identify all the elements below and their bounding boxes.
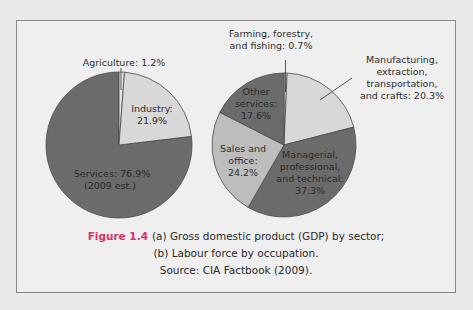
label-managerial-2: professional, bbox=[280, 161, 341, 172]
figure-number: Figure 1.4 bbox=[88, 230, 148, 242]
label-manufacturing-3: transportation, bbox=[367, 78, 438, 89]
label-services-1: Services: 76.9% bbox=[74, 168, 150, 179]
label-managerial-3: and technical: bbox=[276, 173, 343, 184]
label-other-2: services: bbox=[235, 98, 277, 109]
label-sales-3: 24.2% bbox=[228, 167, 258, 178]
label-managerial-4: 37.3% bbox=[295, 185, 325, 196]
label-manufacturing-4: and crafts: 20.3% bbox=[360, 90, 444, 101]
label-sales-2: office: bbox=[228, 155, 257, 166]
gdp-pie-chart bbox=[46, 72, 192, 218]
label-other-3: 17.6% bbox=[241, 110, 271, 121]
caption-part-a: (a) Gross domestic product (GDP) by sect… bbox=[152, 230, 384, 242]
label-services-2: (2009 est.) bbox=[84, 180, 136, 191]
figure-caption: Figure 1.4(a) Gross domestic product (GD… bbox=[16, 228, 456, 279]
label-industry-1: Industry: bbox=[131, 103, 173, 114]
caption-source: Source: CIA Factbook (2009). bbox=[16, 262, 456, 279]
label-industry-2: 21.9% bbox=[137, 115, 167, 126]
label-sales-1: Sales and bbox=[220, 143, 266, 154]
caption-line-2: (b) Labour force by occupation. bbox=[16, 245, 456, 262]
label-other-1: Other bbox=[243, 86, 270, 97]
label-manufacturing-2: extraction, bbox=[376, 66, 427, 77]
caption-line-1: Figure 1.4(a) Gross domestic product (GD… bbox=[16, 228, 456, 245]
label-farming-1: Farming, forestry, bbox=[229, 28, 313, 39]
label-managerial-1: Managerial, bbox=[282, 149, 338, 160]
label-farming-2: and fishing: 0.7% bbox=[230, 40, 313, 51]
label-agriculture: Agriculture: 1.2% bbox=[83, 57, 166, 68]
label-manufacturing-1: Manufacturing, bbox=[366, 54, 438, 65]
